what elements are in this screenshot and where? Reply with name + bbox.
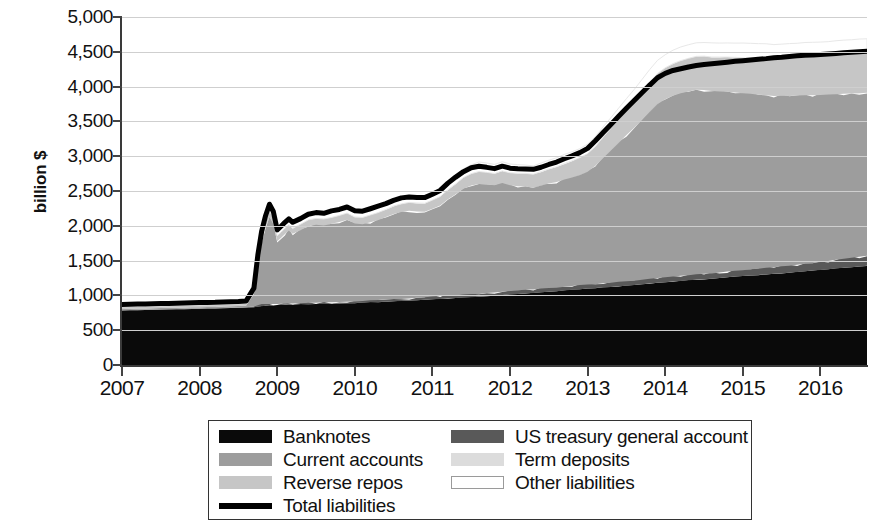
gridline: [122, 52, 867, 53]
y-axis-tick-mark: [113, 51, 122, 53]
x-axis-tick-mark: [664, 367, 666, 376]
legend-item[interactable]: Term deposits: [451, 449, 741, 471]
x-axis-tick-label: 2011: [389, 376, 475, 400]
legend-swatch-icon: [451, 476, 504, 489]
x-axis-line: [120, 365, 868, 367]
y-axis-tick-mark: [113, 329, 122, 331]
x-axis-tick-mark: [276, 367, 278, 376]
gridline: [122, 295, 867, 296]
y-axis-tick-mark: [113, 86, 122, 88]
legend-swatch-icon: [219, 503, 272, 509]
legend-label: Banknotes: [283, 426, 370, 448]
y-axis-tick-mark: [113, 155, 122, 157]
legend-label: US treasury general account: [515, 426, 748, 448]
legend-label: Other liabilities: [515, 472, 635, 494]
legend-row: Total liabilities: [219, 494, 745, 517]
y-axis-tick-mark: [113, 294, 122, 296]
y-axis-tick-label: 3,500: [21, 111, 113, 130]
x-axis-tick-label: 2013: [545, 376, 631, 400]
y-axis-tick-mark: [113, 16, 122, 18]
x-axis-tick-mark: [354, 367, 356, 376]
legend-item[interactable]: Other liabilities: [451, 472, 741, 494]
legend-label: Current accounts: [283, 449, 423, 471]
legend-label: Reverse repos: [283, 472, 403, 494]
legend-swatch-icon: [219, 453, 272, 466]
y-axis-tick-label: 500: [21, 320, 113, 339]
x-axis-tick-mark: [509, 367, 511, 376]
y-axis-tick-mark: [113, 225, 122, 227]
gridline: [122, 17, 867, 18]
legend-swatch-icon: [451, 453, 504, 466]
y-axis-tick-label: 1,000: [21, 285, 113, 304]
gridline: [122, 261, 867, 262]
legend-item[interactable]: Total liabilities: [219, 495, 451, 517]
y-axis-tick-label: 2,000: [21, 216, 113, 235]
y-axis-tick-mark: [113, 364, 122, 366]
legend-swatch-icon: [451, 430, 504, 443]
legend-label: Total liabilities: [283, 495, 395, 517]
x-axis-tick-mark: [819, 367, 821, 376]
legend-item[interactable]: Banknotes: [219, 426, 451, 448]
legend-row: BanknotesUS treasury general account: [219, 425, 745, 448]
x-axis-tick-label: 2009: [234, 376, 320, 400]
y-axis-tick-label: 5,000: [21, 7, 113, 26]
y-axis-tick-label: 4,000: [21, 77, 113, 96]
x-axis-tick-mark: [587, 367, 589, 376]
chart-figure: billion $ 5,0004,5004,0003,5003,0002,500…: [0, 0, 874, 524]
x-axis-tick-mark: [199, 367, 201, 376]
gridline: [122, 121, 867, 122]
x-axis-tick-mark: [431, 367, 433, 376]
gridline: [122, 87, 867, 88]
gridline: [122, 156, 867, 157]
gridline: [122, 191, 867, 192]
x-axis-tick-mark: [742, 367, 744, 376]
gridline: [122, 330, 867, 331]
y-axis-tick-mark: [113, 120, 122, 122]
y-axis-ticks: 5,0004,5004,0003,5003,0002,5002,0001,500…: [0, 0, 113, 524]
x-axis-tick-label: 2014: [622, 376, 708, 400]
x-axis-tick-label: 2016: [777, 376, 863, 400]
y-axis-tick-label: 4,500: [21, 42, 113, 61]
x-axis-tick-label: 2010: [312, 376, 398, 400]
x-axis-tick-label: 2008: [157, 376, 243, 400]
y-axis-tick-mark: [113, 260, 122, 262]
y-axis-tick-label: 2,500: [21, 181, 113, 200]
x-axis-tick-mark: [121, 367, 123, 376]
gridline: [122, 226, 867, 227]
x-axis-tick-label: 2012: [467, 376, 553, 400]
y-axis-tick-label: 0: [21, 355, 113, 374]
chart-legend: BanknotesUS treasury general accountCurr…: [208, 420, 752, 520]
legend-item[interactable]: US treasury general account: [451, 426, 741, 448]
legend-swatch-icon: [219, 430, 272, 443]
y-axis-tick-mark: [113, 190, 122, 192]
legend-label: Term deposits: [515, 449, 629, 471]
y-axis-tick-label: 3,000: [21, 146, 113, 165]
legend-item[interactable]: Reverse repos: [219, 472, 451, 494]
legend-row: Reverse reposOther liabilities: [219, 471, 745, 494]
plot-area: [122, 17, 867, 365]
legend-swatch-icon: [219, 476, 272, 489]
x-axis-tick-label: 2015: [700, 376, 786, 400]
legend-item[interactable]: Current accounts: [219, 449, 451, 471]
x-axis-tick-label: 2007: [79, 376, 165, 400]
y-axis-tick-label: 1,500: [21, 251, 113, 270]
gridlines: [122, 17, 867, 365]
legend-row: Current accountsTerm deposits: [219, 448, 745, 471]
